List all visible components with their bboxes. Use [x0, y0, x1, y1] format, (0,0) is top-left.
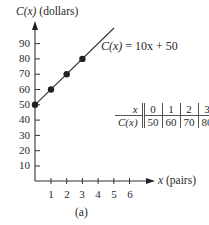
x-tick-label: 6: [125, 189, 135, 200]
x-axis-unit: (pairs): [166, 174, 196, 186]
data-point: [63, 71, 69, 77]
table-header-x: x: [115, 103, 143, 116]
x-tick-label: 2: [62, 189, 72, 200]
data-point: [48, 86, 54, 92]
y-tick-label: 80: [8, 53, 30, 64]
x-axis-arrow-icon: [146, 178, 155, 184]
x-tick-label: 4: [93, 189, 103, 200]
y-tick-label: 60: [8, 84, 30, 95]
table-cell: 50: [143, 116, 162, 129]
table-cell: 0: [143, 103, 162, 116]
y-tick-label: 30: [8, 130, 30, 141]
figure-caption: (a): [75, 207, 88, 219]
table-cell: 3: [198, 103, 209, 116]
table-cell: 80: [198, 116, 209, 129]
table-cell: 2: [180, 103, 198, 116]
equation-lhs: C(x): [101, 39, 122, 53]
equation-label: C(x) = 10x + 50: [101, 40, 178, 52]
table-cell: 70: [180, 116, 198, 129]
y-axis-unit: (dollars): [39, 5, 78, 17]
x-tick-label: 1: [46, 189, 56, 200]
y-tick-label: 90: [8, 38, 30, 49]
table-cell: 1: [162, 103, 180, 116]
y-tick-label: 40: [8, 114, 30, 125]
table-cell: 60: [162, 116, 180, 129]
value-table: x 0 1 2 3 C(x) 50 60 70 80: [115, 103, 209, 128]
y-tick-label: 50: [8, 99, 30, 110]
x-tick-label: 3: [77, 189, 87, 200]
y-tick-label: 20: [8, 145, 30, 156]
y-axis-arrow-icon: [32, 21, 38, 30]
data-point: [79, 56, 85, 62]
y-tick-label: 10: [8, 160, 30, 171]
table-row-x: x 0 1 2 3: [115, 103, 209, 116]
y-tick-label: 70: [8, 68, 30, 79]
table-header-cx: C(x): [115, 116, 143, 129]
x-axis-var: x: [158, 174, 163, 186]
data-point: [32, 102, 38, 108]
x-axis-title: x (pairs): [158, 175, 196, 187]
equation-rhs: = 10x + 50: [125, 39, 178, 53]
x-tick-label: 5: [109, 189, 119, 200]
table-row-cx: C(x) 50 60 70 80: [115, 116, 209, 129]
y-axis-fn: C(x): [16, 5, 36, 17]
y-axis-title: C(x) (dollars): [16, 6, 78, 18]
